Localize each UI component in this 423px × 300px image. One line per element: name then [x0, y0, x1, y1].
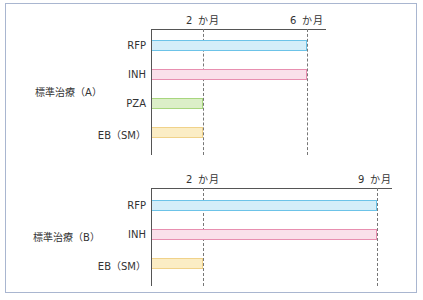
chart-a-row-label-inh: INH — [86, 69, 146, 80]
chart-a-bar-inh — [152, 69, 307, 80]
chart-a-top-axis — [151, 29, 326, 30]
chart-a-group-label: 標準治療（A） — [35, 84, 102, 99]
chart-b-tick-2-months: 2 か月 — [186, 171, 220, 186]
chart-b-tick-9-months: 9 か月 — [358, 171, 392, 186]
chart-a-row-label-rfp: RFP — [86, 40, 146, 51]
chart-a-tick-2-months: 2 か月 — [186, 12, 220, 27]
chart-b-bar-eb-sm — [152, 258, 203, 269]
chart-b-row-label-rfp: RFP — [86, 200, 146, 211]
chart-a-tick-6-months: 6 か月 — [290, 12, 324, 27]
chart-a-bar-rfp — [152, 40, 307, 51]
chart-b-bar-inh — [152, 229, 377, 240]
chart-b-bar-rfp — [152, 200, 377, 211]
chart-a-gridline-6-months — [307, 29, 308, 155]
chart-a-bar-pza — [152, 98, 203, 109]
chart-a-row-label-pza: PZA — [86, 98, 146, 109]
chart-b-top-axis — [151, 188, 392, 189]
chart-a-bar-eb-sm — [152, 127, 203, 138]
chart-b-row-label-eb-sm: EB（SM） — [86, 258, 146, 273]
chart-a-row-label-eb-sm: EB（SM） — [86, 127, 146, 142]
chart-b-gridline-9-months — [377, 188, 378, 286]
chart-b-row-label-inh: INH — [86, 229, 146, 240]
